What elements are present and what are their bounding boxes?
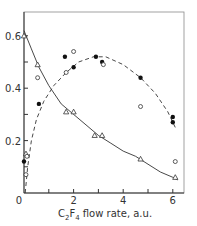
y-ticks: 0.20.40.6 [5,31,28,167]
filled-circle-marker [71,65,75,69]
open-triangle-marker [173,175,178,180]
open-triangle-marker [100,133,105,138]
x-ticks: 0246 [16,189,176,206]
open-circle-marker [64,70,68,74]
filled-circle-marker [94,55,98,59]
y-tick-label: 0.6 [5,31,21,42]
plot-frame [24,12,184,193]
y-tick-label: 0.4 [5,83,21,94]
x-tick-label: 4 [120,195,126,206]
open-circle-marker [36,76,40,80]
filled-circles-fit-curve [25,57,175,193]
open-circle-marker [24,173,28,177]
open-circle-marker [173,160,177,164]
open-circle-marker [72,50,76,54]
filled-circle-marker [37,102,41,106]
x-axis-title: C2F4 flow rate, a.u. [58,208,152,222]
chart: 0246 0.20.40.6 C2F4 flow rate, a.u. [0,0,197,226]
open-triangles-fit-curve [24,31,178,180]
fit-curves [24,31,178,193]
open-circle-marker [101,63,105,67]
x-tick-label: 6 [170,195,176,206]
open-triangle-marker [71,109,76,114]
open-circle-marker [25,154,29,158]
open-triangle-marker [35,62,40,67]
x-tick-label: 0 [16,195,22,206]
filled-circle-marker [63,55,67,59]
filled-circle-marker [138,76,142,80]
filled-circle-marker [22,159,26,163]
data-points [21,33,177,179]
open-circle-marker [139,105,143,109]
filled-circle-marker [171,120,175,124]
x-tick-label: 2 [70,195,76,206]
y-tick-label: 0.2 [5,136,21,147]
filled-circle-marker [171,115,175,119]
